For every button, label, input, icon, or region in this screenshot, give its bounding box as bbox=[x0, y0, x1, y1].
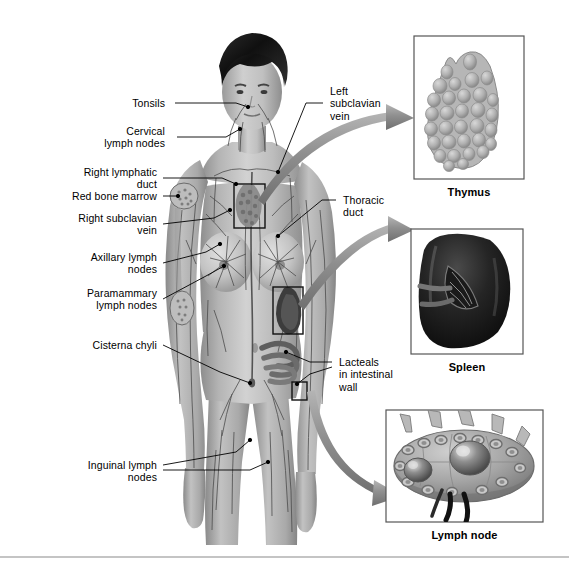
label-inguinal-lymph-nodes: Inguinal lymph nodes bbox=[38, 459, 157, 484]
label-axillary-lymph-nodes: Axillary lymph nodes bbox=[40, 251, 157, 276]
label-left-subclavian-vein: Left subclavian vein bbox=[330, 85, 408, 122]
caption-spleen: Spleen bbox=[411, 361, 523, 373]
lymph-node-inset-panel bbox=[386, 410, 543, 522]
lymphatic-system-figure: Tonsils Cervical lymph nodes Right lymph… bbox=[0, 0, 569, 583]
caption-lymph-node: Lymph node bbox=[386, 529, 543, 541]
label-tonsils: Tonsils bbox=[70, 97, 165, 109]
spleen-inset-panel bbox=[411, 229, 523, 354]
label-right-lymphatic-duct: Right lymphatic duct bbox=[33, 166, 157, 191]
label-paramammary-lymph-nodes: Paramammary lymph nodes bbox=[35, 287, 157, 312]
caption-thymus: Thymus bbox=[414, 186, 524, 198]
label-cervical-lymph-nodes: Cervical lymph nodes bbox=[45, 125, 165, 150]
label-right-subclavian-vein: Right subclavian vein bbox=[26, 212, 157, 237]
label-cisterna-chyli: Cisterna chyli bbox=[43, 339, 157, 351]
label-red-bone-marrow: Red bone marrow bbox=[23, 190, 157, 202]
thymus-inset-panel bbox=[414, 36, 524, 179]
label-thoracic-duct: Thoracic duct bbox=[343, 194, 413, 219]
label-lacteals-in-intestinal-wall: Lacteals in intestinal wall bbox=[339, 356, 413, 393]
